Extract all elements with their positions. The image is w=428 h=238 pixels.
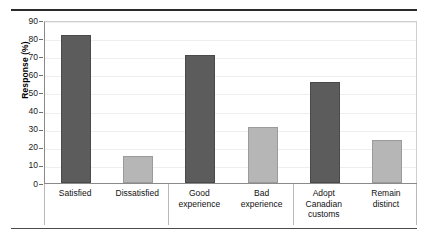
x-axis-category-label-line: Good [168,188,230,199]
y-axis-tick-mark [39,21,43,22]
y-axis-tick-mark [39,39,43,40]
y-axis-tick-label: 0 [8,179,38,189]
gridline [45,94,416,95]
y-axis-tick-label: 80 [8,34,38,44]
x-axis-category-label-line: Canadian [293,199,355,210]
x-axis-category-label: Badexperience [231,188,293,209]
bottom-divider-rule [11,228,417,229]
plot-area [44,21,417,184]
category-group-separator [168,184,169,225]
y-axis-tick-mark [39,75,43,76]
y-axis-tick-mark [39,57,43,58]
label-band-edge [44,184,45,225]
x-axis-category-label-line: Dissatisfied [106,188,168,199]
gridline [45,40,416,41]
gridline [45,113,416,114]
bar [123,156,153,183]
x-axis-category-label: Dissatisfied [106,188,168,199]
bar [310,82,340,183]
y-axis-tick-label: 40 [8,106,38,116]
y-axis-tick-mark [39,93,43,94]
gridline [45,131,416,132]
y-axis-tick-label: 20 [8,142,38,152]
y-axis-tick-mark [39,130,43,131]
y-axis-tick-label: 30 [8,124,38,134]
gridline [45,76,416,77]
x-axis-category-label: AdoptCanadiancustoms [293,188,355,220]
category-group-separator [293,184,294,225]
chart-figure: Response (%) 0102030405060708090 Satisfi… [0,0,428,238]
y-axis-tick-label: 60 [8,70,38,80]
x-axis-category-label-line: Bad [231,188,293,199]
y-axis-tick-label: 50 [8,88,38,98]
y-axis-tick-label: 70 [8,52,38,62]
x-axis-category-label-line: Adopt [293,188,355,199]
label-band-edge [416,184,417,225]
gridline [45,167,416,168]
y-axis-tick-mark [39,184,43,185]
x-axis-category-label: Remaindistinct [355,188,417,209]
x-axis-category-label: Goodexperience [168,188,230,209]
x-axis-category-label-line: experience [231,199,293,210]
x-axis-category-label-line: customs [293,209,355,220]
y-axis-tick-mark [39,148,43,149]
y-axis-tick-mark [39,112,43,113]
y-axis-tick-label: 90 [8,16,38,26]
gridline [45,22,416,23]
gridline [45,58,416,59]
bar [248,127,278,183]
y-axis-tick-label: 10 [8,160,38,170]
x-axis-category-label-line: distinct [355,199,417,210]
bar [185,55,215,183]
y-axis-tick-mark [39,166,43,167]
x-axis-label-band: SatisfiedDissatisfiedGoodexperienceBadex… [44,184,417,225]
x-axis-category-label-line: experience [168,199,230,210]
x-axis-category-label-line: Remain [355,188,417,199]
bar [372,140,402,183]
gridline [45,149,416,150]
x-axis-category-label-line: Satisfied [44,188,106,199]
top-divider-rule [11,9,417,11]
x-axis-category-label: Satisfied [44,188,106,199]
bar [61,35,91,183]
